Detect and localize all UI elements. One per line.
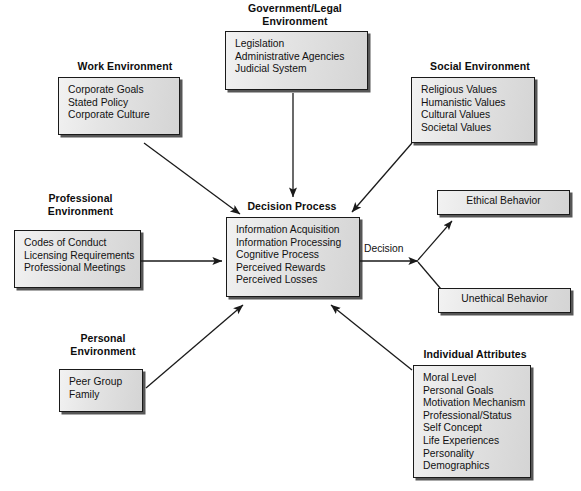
list-item: Life Experiences bbox=[423, 435, 521, 448]
list-item: Cognitive Process bbox=[236, 249, 350, 262]
list-item: Moral Level bbox=[423, 372, 521, 385]
list-item: Perceived Rewards bbox=[236, 262, 350, 275]
list-item: Demographics bbox=[423, 460, 521, 473]
list-item: Motivation Mechanism bbox=[423, 397, 521, 410]
node-title-personal-environment: Personal Environment bbox=[48, 332, 158, 357]
node-social-environment: Social Environment Religious Values Huma… bbox=[400, 60, 560, 150]
list-item: Religious Values bbox=[421, 84, 525, 97]
list-item: Family bbox=[69, 389, 133, 402]
list-item: Corporate Goals bbox=[68, 84, 170, 97]
arrow-individual-attributes-to-decision bbox=[331, 305, 412, 370]
node-professional-environment: Professional Environment Codes of Conduc… bbox=[13, 192, 148, 292]
list-item: Judicial System bbox=[235, 63, 358, 76]
node-items-work-environment: Corporate Goals Stated Policy Corporate … bbox=[68, 84, 170, 122]
node-items-individual-attributes: Moral Level Personal Goals Motivation Me… bbox=[423, 372, 521, 473]
node-work-environment: Work Environment Corporate Goals Stated … bbox=[45, 60, 205, 145]
list-item: Cultural Values bbox=[421, 109, 525, 122]
arrow-personal-to-decision bbox=[146, 305, 243, 388]
arrow-split-to-ethical bbox=[418, 221, 452, 260]
node-items-social-environment: Religious Values Humanistic Values Cultu… bbox=[421, 84, 525, 134]
node-box-ethical-behavior: Ethical Behavior bbox=[437, 190, 570, 215]
list-item: Self Concept bbox=[423, 422, 521, 435]
node-box-work-environment: Corporate Goals Stated Policy Corporate … bbox=[58, 77, 180, 135]
list-item: Humanistic Values bbox=[421, 97, 525, 110]
list-item: Professional Meetings bbox=[24, 262, 131, 275]
node-box-social-environment: Religious Values Humanistic Values Cultu… bbox=[411, 77, 535, 143]
list-item: Personal Goals bbox=[423, 385, 521, 398]
node-items-personal-environment: Peer Group Family bbox=[69, 376, 133, 401]
node-box-personal-environment: Peer Group Family bbox=[59, 369, 143, 412]
node-personal-environment: Personal Environment Peer Group Family bbox=[48, 332, 158, 417]
node-title-decision-process: Decision Process bbox=[222, 200, 362, 213]
list-item: Professional/Status bbox=[423, 410, 521, 423]
list-item: Administrative Agencies bbox=[235, 51, 358, 64]
node-box-unethical-behavior: Unethical Behavior bbox=[438, 288, 571, 313]
list-item: Societal Values bbox=[421, 122, 525, 135]
node-box-individual-attributes: Moral Level Personal Goals Motivation Me… bbox=[413, 365, 531, 478]
list-item: Licensing Requirements bbox=[24, 250, 131, 263]
list-item: Information Processing bbox=[236, 237, 350, 250]
node-items-government-legal-environment: Legislation Administrative Agencies Judi… bbox=[235, 38, 358, 76]
ethical-decision-making-diagram: Government/Legal Environment Legislation… bbox=[0, 0, 581, 491]
list-item: Unethical Behavior bbox=[448, 293, 561, 306]
node-title-government-legal-environment: Government/Legal Environment bbox=[215, 2, 375, 27]
node-items-unethical-behavior: Unethical Behavior bbox=[448, 293, 561, 306]
node-items-decision-process: Information Acquisition Information Proc… bbox=[236, 224, 350, 287]
list-item: Peer Group bbox=[69, 376, 133, 389]
node-box-government-legal-environment: Legislation Administrative Agencies Judi… bbox=[225, 31, 368, 90]
node-title-work-environment: Work Environment bbox=[45, 60, 205, 73]
list-item: Ethical Behavior bbox=[447, 195, 560, 208]
node-individual-attributes: Individual Attributes Moral Level Person… bbox=[405, 348, 545, 483]
node-ethical-behavior: Ethical Behavior bbox=[437, 190, 573, 218]
list-item: Perceived Losses bbox=[236, 274, 350, 287]
node-title-individual-attributes: Individual Attributes bbox=[405, 348, 545, 361]
edge-label-decision: Decision bbox=[364, 243, 404, 254]
list-item: Codes of Conduct bbox=[24, 237, 131, 250]
node-government-legal-environment: Government/Legal Environment Legislation… bbox=[215, 2, 375, 94]
list-item: Legislation bbox=[235, 38, 358, 51]
node-box-professional-environment: Codes of Conduct Licensing Requirements … bbox=[14, 230, 141, 288]
list-item: Personality bbox=[423, 448, 521, 461]
node-items-ethical-behavior: Ethical Behavior bbox=[447, 195, 560, 208]
node-items-professional-environment: Codes of Conduct Licensing Requirements … bbox=[24, 237, 131, 275]
list-item: Information Acquisition bbox=[236, 224, 350, 237]
node-title-professional-environment: Professional Environment bbox=[13, 192, 148, 217]
list-item: Corporate Culture bbox=[68, 109, 170, 122]
node-unethical-behavior: Unethical Behavior bbox=[438, 288, 574, 316]
node-decision-process: Decision Process Information Acquisition… bbox=[222, 200, 362, 300]
node-box-decision-process: Information Acquisition Information Proc… bbox=[226, 217, 360, 297]
node-title-social-environment: Social Environment bbox=[400, 60, 560, 73]
list-item: Stated Policy bbox=[68, 97, 170, 110]
